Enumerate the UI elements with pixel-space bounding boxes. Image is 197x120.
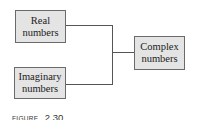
node-label-line: Complex xyxy=(140,41,179,53)
node-label-line: Real xyxy=(22,15,58,27)
node-real-numbers: Real numbers xyxy=(15,10,66,43)
node-label-line: numbers xyxy=(22,27,58,39)
connector-real-horizontal xyxy=(66,25,113,26)
caption-number: 2.30 xyxy=(45,112,64,120)
node-label: Real numbers xyxy=(22,15,58,39)
diagram-canvas: Real numbers Imaginary numbers Complex n… xyxy=(0,0,197,120)
node-label-line: Imaginary xyxy=(18,71,61,83)
connector-imaginary-horizontal xyxy=(66,84,113,85)
node-label: Imaginary numbers xyxy=(18,71,61,95)
caption-word: FIGURE xyxy=(12,115,38,120)
node-complex-numbers: Complex numbers xyxy=(134,36,185,70)
node-label: Complex numbers xyxy=(140,41,179,65)
node-imaginary-numbers: Imaginary numbers xyxy=(14,67,66,99)
connector-vertical-join xyxy=(112,25,113,85)
node-label-line: numbers xyxy=(18,83,61,95)
figure-caption: FIGURE 2.30 xyxy=(12,107,63,120)
connector-to-complex xyxy=(112,52,134,53)
node-label-line: numbers xyxy=(140,53,179,65)
